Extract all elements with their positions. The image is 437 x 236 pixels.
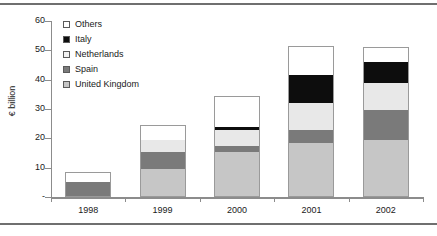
bar-segment-2000-united-kingdom (214, 152, 260, 197)
y-tick-label: 10 (5, 163, 45, 172)
y-tick-label: - (5, 192, 45, 201)
bar-segment-1999-netherlands (140, 140, 186, 152)
y-tick-label: 60 (5, 16, 45, 25)
bar-2001 (288, 46, 334, 197)
bar-segment-2001-spain (288, 130, 334, 143)
legend-swatch-icon (63, 66, 70, 73)
legend-item-united-kingdom: United Kingdom (63, 77, 139, 92)
x-axis-line (51, 197, 423, 199)
x-tick-label-1999: 1999 (126, 205, 200, 215)
bar-segment-2000-netherlands (214, 130, 260, 146)
bar-segment-2002-spain (363, 110, 409, 139)
bar-segment-2002-netherlands (363, 83, 409, 111)
bar-segment-2000-others (214, 96, 260, 127)
x-tick-mark (349, 197, 350, 202)
legend-swatch-icon (63, 21, 70, 28)
legend-item-netherlands: Netherlands (63, 47, 139, 62)
bar-segment-1999-spain (140, 152, 186, 170)
bar-1999 (140, 125, 186, 197)
legend-swatch-icon (63, 81, 70, 88)
legend-item-spain: Spain (63, 62, 139, 77)
x-tick-label-2002: 2002 (349, 205, 423, 215)
legend-label: Italy (75, 35, 92, 44)
legend-label: Spain (75, 65, 98, 74)
chart-figure: € billion -102030405060 1998199920002001… (0, 0, 437, 236)
x-tick-mark (51, 197, 52, 202)
bottom-divider (0, 223, 437, 225)
bar-segment-1998-spain (65, 182, 111, 197)
y-tick-label-wrap: 20 (0, 133, 45, 142)
top-divider (0, 3, 437, 5)
x-tick-mark (200, 197, 201, 202)
x-tick-mark (125, 197, 126, 202)
legend-label: United Kingdom (75, 80, 139, 89)
bar-segment-2001-netherlands (288, 103, 334, 129)
bar-segment-2001-others (288, 46, 334, 75)
y-tick-label-wrap: 40 (0, 75, 45, 84)
y-tick-label: 40 (5, 75, 45, 84)
y-tick-label-wrap: 10 (0, 163, 45, 172)
x-tick-label-2001: 2001 (274, 205, 348, 215)
bar-1998 (65, 172, 111, 197)
y-tick-label: 30 (5, 104, 45, 113)
legend-swatch-icon (63, 36, 70, 43)
y-tick-label-wrap: - (0, 192, 45, 201)
x-tick-label-1998: 1998 (51, 205, 125, 215)
bar-segment-1998-others (65, 172, 111, 182)
x-tick-label-2000: 2000 (200, 205, 274, 215)
bar-segment-1999-united-kingdom (140, 169, 186, 197)
legend-item-italy: Italy (63, 32, 139, 47)
bar-segment-2001-italy (288, 75, 334, 103)
y-tick-label: 50 (5, 45, 45, 54)
legend-label: Netherlands (75, 50, 124, 59)
bar-2000 (214, 96, 260, 197)
y-tick-label: 20 (5, 133, 45, 142)
bar-segment-2001-united-kingdom (288, 143, 334, 197)
legend-swatch-icon (63, 51, 70, 58)
y-tick-label-wrap: 50 (0, 45, 45, 54)
legend-label: Others (75, 20, 102, 29)
legend: OthersItalyNetherlandsSpainUnited Kingdo… (63, 17, 139, 92)
y-tick-label-wrap: 30 (0, 104, 45, 113)
x-tick-mark (274, 197, 275, 202)
bar-segment-2002-others (363, 47, 409, 62)
bar-2002 (363, 47, 409, 197)
bar-segment-1999-others (140, 125, 186, 140)
y-tick-label-wrap: 60 (0, 16, 45, 25)
bar-segment-2002-united-kingdom (363, 140, 409, 197)
legend-item-others: Others (63, 17, 139, 32)
bar-segment-2002-italy (363, 62, 409, 83)
x-tick-mark (423, 197, 424, 202)
